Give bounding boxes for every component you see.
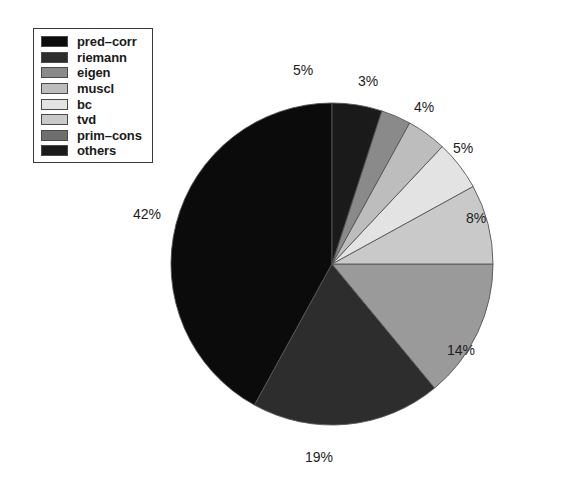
legend-item-others[interactable]: others — [41, 143, 152, 159]
legend-label-riemann: riemann — [77, 51, 127, 64]
legend-swatch-others — [41, 145, 68, 156]
legend-label-tvd: tvd — [77, 113, 96, 126]
legend-label-muscl: muscl — [77, 82, 114, 95]
pie-label-riemann: 19% — [305, 449, 333, 465]
pie-label-pred-corr: 42% — [133, 206, 161, 222]
legend-item-pred-corr[interactable]: pred–corr — [41, 34, 152, 50]
legend-label-others: others — [77, 144, 116, 157]
legend-label-bc: bc — [77, 98, 92, 111]
legend-swatch-pred-corr — [41, 36, 68, 47]
legend-swatch-tvd — [41, 114, 68, 125]
legend-item-bc[interactable]: bc — [41, 96, 152, 112]
legend-item-tvd[interactable]: tvd — [41, 112, 152, 128]
pie-label-others: 5% — [293, 62, 313, 78]
pie-label-eigen: 3% — [358, 73, 378, 89]
pie-label-muscl: 4% — [414, 99, 434, 115]
legend-swatch-bc — [41, 99, 68, 110]
legend-item-eigen[interactable]: eigen — [41, 65, 152, 81]
legend: pred–corr riemann eigen muscl bc tvd pri… — [33, 28, 153, 163]
legend-item-muscl[interactable]: muscl — [41, 81, 152, 97]
pie-label-prim-cons: 14% — [447, 342, 475, 358]
legend-swatch-riemann — [41, 52, 68, 63]
pie-slice-group — [171, 103, 493, 425]
legend-item-riemann[interactable]: riemann — [41, 50, 152, 66]
pie-chart-figure: 42% 19% 14% 8% 5% 4% 3% 5% pred–corr rie… — [0, 0, 562, 487]
pie-label-bc: 5% — [453, 140, 473, 156]
legend-swatch-prim-cons — [41, 130, 68, 141]
legend-label-eigen: eigen — [77, 66, 110, 79]
legend-swatch-muscl — [41, 83, 68, 94]
legend-label-prim-cons: prim–cons — [77, 129, 142, 142]
legend-swatch-eigen — [41, 67, 68, 78]
legend-item-prim-cons[interactable]: prim–cons — [41, 128, 152, 144]
legend-label-pred-corr: pred–corr — [77, 35, 137, 48]
pie-label-tvd: 8% — [466, 210, 486, 226]
